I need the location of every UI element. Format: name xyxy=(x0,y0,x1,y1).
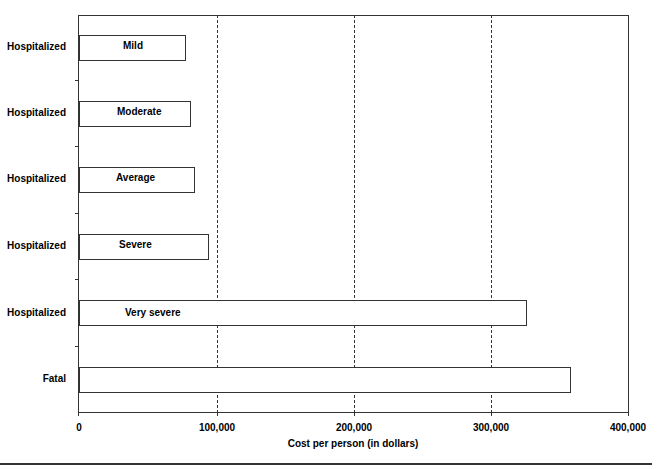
x-tick-label: 300,000 xyxy=(473,422,509,433)
category-label: Hospitalized xyxy=(7,173,66,184)
x-tick xyxy=(78,410,79,416)
x-tick-label: 200,000 xyxy=(336,422,372,433)
bar-label-moderate: Moderate xyxy=(117,106,161,117)
bar-label-mild: Mild xyxy=(123,40,143,51)
x-tick-label: 0 xyxy=(76,422,82,433)
x-tick-label: 400,000 xyxy=(610,422,646,433)
gridline-100000 xyxy=(217,15,218,413)
gridline-200000 xyxy=(354,15,355,413)
x-tick xyxy=(354,410,355,416)
gridline-300000 xyxy=(491,15,492,413)
category-label: Hospitalized xyxy=(7,107,66,118)
y-tick xyxy=(75,346,79,347)
y-tick xyxy=(75,213,79,214)
x-tick xyxy=(491,410,492,416)
y-tick xyxy=(75,80,79,81)
category-label: Hospitalized xyxy=(7,307,66,318)
y-tick xyxy=(75,146,79,147)
bar-label-average: Average xyxy=(116,172,155,183)
x-tick-label: 100,000 xyxy=(199,422,235,433)
bar-fatal xyxy=(79,367,571,393)
x-tick xyxy=(628,410,629,416)
bar-label-severe: Severe xyxy=(119,239,152,250)
x-tick xyxy=(217,410,218,416)
bar-label-very-severe: Very severe xyxy=(125,307,181,318)
category-label: Fatal xyxy=(43,373,66,384)
bottom-divider xyxy=(0,463,652,465)
cost-per-person-chart: Mild Moderate Average Severe Very severe… xyxy=(0,0,658,469)
category-label: Hospitalized xyxy=(7,240,66,251)
category-label: Hospitalized xyxy=(7,41,66,52)
y-tick xyxy=(75,279,79,280)
x-axis-title: Cost per person (in dollars) xyxy=(288,438,419,449)
